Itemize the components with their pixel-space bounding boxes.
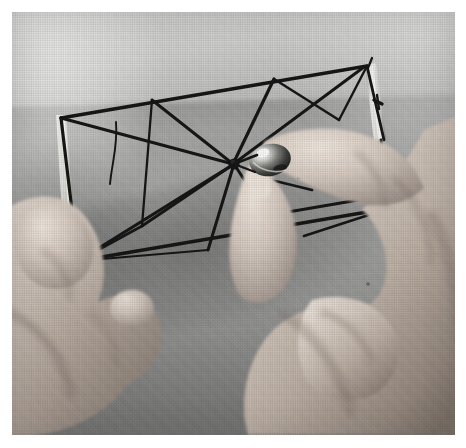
scene-artwork: [12, 12, 455, 435]
photograph-plate: Two hands hold a rectangular frame strun…: [12, 12, 455, 435]
left-hand-knuckle: [110, 290, 154, 326]
string-chord-upper-right: [274, 79, 339, 120]
right-hand-mole: [366, 282, 370, 286]
page-root: Two hands hold a rectangular frame strun…: [0, 0, 466, 448]
right-hand-index-finger: [264, 128, 424, 205]
string-chord-vertical-left: [142, 100, 152, 226]
left-hand: [12, 197, 162, 435]
